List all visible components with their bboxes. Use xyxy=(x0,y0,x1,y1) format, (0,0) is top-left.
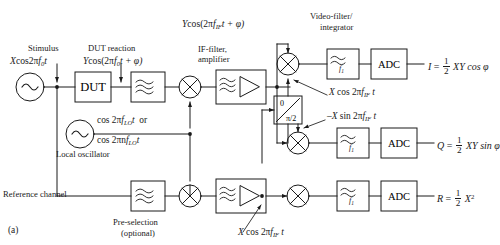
out-q-fraction: 1 2 xyxy=(456,136,463,155)
if-tail: t + φ) xyxy=(222,18,244,29)
mixer-ref-sin-if-label: –X sin 2πfIF t xyxy=(327,112,376,122)
out-r-fraction: 1 2 xyxy=(455,189,462,208)
mrb-expr: cos 2π xyxy=(246,227,270,237)
phase-shifter-zero-label: 0 xyxy=(280,99,284,108)
dut-tail: t + φ) xyxy=(120,55,142,66)
out-r-eq: = xyxy=(446,193,452,204)
video-filter-label-line1: Video-filter/ xyxy=(310,12,352,21)
adc-r-label: ADC xyxy=(388,191,410,202)
adc-q-label: ADC xyxy=(388,138,410,149)
lo1-expr: cos 2π xyxy=(97,115,121,125)
lo2-freq-sub: LO xyxy=(129,139,137,146)
local-oscillator-label: Local oscillator xyxy=(56,150,110,159)
leader-cos-if xyxy=(294,80,327,95)
output-r-label: R = 1 2 X2 xyxy=(437,189,474,208)
dut-signal-label: Ycos(2πf0t + φ) xyxy=(83,56,142,68)
out-r-sup: 2 xyxy=(471,193,474,200)
stimulus-signal-label: Xcos2πf0t xyxy=(10,56,47,68)
mrb-amp: X xyxy=(238,227,244,237)
out-q-eq: = xyxy=(447,140,453,151)
output-i-label: I = 1 2 XY cos φ xyxy=(428,57,489,76)
stimulus-expr: cos2π xyxy=(16,55,38,66)
reference-channel-label: Reference channel xyxy=(3,190,67,199)
preselection-label-line2: (optional) xyxy=(121,229,155,238)
mrc-freq-sub: IF xyxy=(364,91,370,98)
lo-signal-line2: cos 2πnfLOt xyxy=(97,136,139,146)
adc-i-label: ADC xyxy=(378,59,400,70)
mixer-ref-bottom-label: X cos 2πfIF t xyxy=(238,228,284,238)
vf-i-sub: 1 xyxy=(341,68,344,74)
out-i-name: I xyxy=(428,61,431,72)
out-i-fraction: 1 2 xyxy=(443,57,450,76)
lo1-freq-sub: LO xyxy=(124,119,132,126)
mrs-tail: t xyxy=(373,111,376,121)
vf-r-sub: 1 xyxy=(351,200,354,206)
if-signal-label: Ycos(2πfIFt + φ) xyxy=(182,19,244,31)
amplifier-triangle-icon xyxy=(240,77,259,97)
mrs-amp: –X xyxy=(327,111,337,121)
leader-sin-if xyxy=(304,120,325,128)
out-i-den: 2 xyxy=(443,67,450,76)
if-expr: cos(2π xyxy=(187,18,213,29)
out-q-name: Q xyxy=(437,140,444,151)
vf-q-sub: 1 xyxy=(351,147,354,153)
mrb-tail: t xyxy=(281,227,284,237)
out-i-expr: XY cos φ xyxy=(453,61,489,72)
mrc-amp: X xyxy=(329,87,335,97)
output-q-label: Q = 1 2 XY sin φ xyxy=(437,136,500,155)
out-i-eq: = xyxy=(434,61,440,72)
video-filter-r-fsub: f1 xyxy=(349,197,354,206)
figure-caption: (a) xyxy=(8,226,18,236)
preselection-label-line1: Pre-selection xyxy=(113,218,158,227)
video-filter-label-line2: integrator xyxy=(320,23,353,32)
stimulus-tail: t xyxy=(44,55,47,66)
junction-dot xyxy=(260,194,264,198)
dut-reaction-label: DUT reaction xyxy=(88,44,135,53)
lo1-tail: t xyxy=(132,115,135,125)
lo2-tail: t xyxy=(137,135,140,145)
if-filter-label-line1: IF-filter, xyxy=(198,45,227,54)
dut-label: DUT xyxy=(80,80,106,94)
phase-shifter-piover2-label: π/2 xyxy=(286,114,296,123)
out-q-expr: XY sin φ xyxy=(466,140,500,151)
if-filter-label-line2: amplifier xyxy=(198,55,230,64)
mrs-expr: sin 2π xyxy=(340,111,363,121)
out-r-den: 2 xyxy=(455,199,462,208)
lo-signal-line1: cos 2πfLOt or xyxy=(97,116,147,126)
mrc-tail: t xyxy=(372,87,375,97)
dut-expr: cos(2π xyxy=(88,55,114,66)
lo2-expr: cos 2πn xyxy=(97,135,126,145)
lo1-or: or xyxy=(139,115,147,125)
reference-amplifier-triangle-icon xyxy=(240,186,259,206)
mrs-freq-sub: IF xyxy=(365,115,371,122)
video-filter-i-fsub: f1 xyxy=(339,65,344,74)
out-r-name: R xyxy=(437,193,443,204)
stimulus-label: Stimulus xyxy=(28,44,59,53)
mixer-ref-cos-if-label: X cos 2πfIF t xyxy=(329,88,375,98)
mrb-freq-sub: IF xyxy=(273,231,279,238)
video-filter-q-fsub: f1 xyxy=(349,144,354,153)
mrc-expr: cos 2π xyxy=(337,87,361,97)
out-q-den: 2 xyxy=(456,146,463,155)
